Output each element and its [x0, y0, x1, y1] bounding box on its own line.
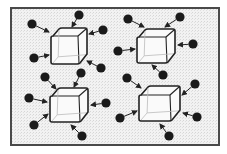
particle-dot-icon: [123, 14, 132, 23]
diagram-canvas: [0, 0, 227, 154]
particle-dot-icon: [24, 93, 33, 102]
particle-dot-icon: [74, 10, 83, 19]
particle-dot-icon: [115, 113, 124, 122]
particle-dot-icon: [101, 98, 110, 107]
particle-dot-icon: [164, 131, 173, 140]
particle-dot-icon: [29, 120, 38, 129]
arrow-icon: [178, 44, 189, 45]
cube-top-left: [51, 28, 87, 64]
cube-bottom-left: [50, 88, 88, 122]
particle-dot-icon: [122, 73, 131, 82]
particle-dot-icon: [76, 68, 85, 77]
cube-top-right: [137, 29, 175, 63]
particle-dot-icon: [27, 19, 36, 28]
particle-dot-icon: [96, 63, 105, 72]
particle-dot-icon: [29, 53, 38, 62]
particle-dot-icon: [192, 112, 201, 121]
particle-dot-icon: [113, 46, 122, 55]
particle-dot-icon: [158, 70, 167, 79]
particle-dot-icon: [175, 12, 184, 21]
particle-dot-icon: [98, 25, 107, 34]
particle-dot-icon: [188, 39, 197, 48]
particle-dot-icon: [40, 72, 49, 81]
particle-dot-icon: [190, 79, 199, 88]
cube-bottom-right: [139, 86, 180, 121]
particle-dot-icon: [77, 131, 86, 140]
